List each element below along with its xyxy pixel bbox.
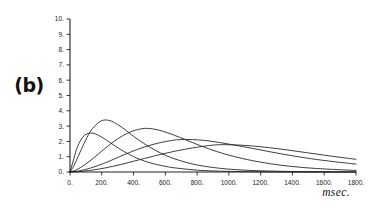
- y-tick-label: 9.: [59, 31, 65, 38]
- y-tick-label: 4.: [59, 107, 65, 114]
- y-tick-label: 2.: [59, 138, 65, 145]
- y-axis-tick-labels: 0.1.2.3.4.5.6.7.8.9.10.: [55, 15, 64, 175]
- y-tick-label: 1.: [59, 153, 65, 160]
- chart-plot: 0.1.2.3.4.5.6.7.8.9.10. 0.200.400.600.80…: [0, 0, 371, 208]
- data-curve: [70, 120, 356, 172]
- figure-panel: (b) 0.1.2.3.4.5.6.7.8.9.10. 0.200.400.60…: [0, 0, 371, 208]
- y-tick-label: 10.: [55, 15, 64, 22]
- x-tick-label: 0.: [67, 179, 73, 186]
- data-curves: [70, 120, 356, 172]
- x-tick-label: 1800.: [348, 179, 365, 186]
- x-tick-label: 400.: [127, 179, 140, 186]
- y-tick-label: 6.: [59, 77, 65, 84]
- y-tick-label: 7.: [59, 61, 65, 68]
- x-tick-label: 600.: [159, 179, 172, 186]
- y-tick-label: 0.: [59, 168, 65, 175]
- x-tick-label: 800.: [191, 179, 204, 186]
- data-curve: [70, 128, 356, 172]
- x-tick-label: 1200.: [252, 179, 269, 186]
- x-axis-title: msec.: [322, 186, 350, 198]
- y-tick-label: 5.: [59, 92, 65, 99]
- y-tick-label: 3.: [59, 123, 65, 130]
- x-tick-label: 200.: [95, 179, 108, 186]
- y-tick-label: 8.: [59, 46, 65, 53]
- axes: [70, 19, 356, 172]
- x-tick-label: 1400.: [284, 179, 301, 186]
- x-tick-label: 1000.: [221, 179, 238, 186]
- x-tick-label: 1600.: [316, 179, 333, 186]
- x-axis-tick-labels: 0.200.400.600.800.1000.1200.1400.1600.18…: [67, 179, 364, 186]
